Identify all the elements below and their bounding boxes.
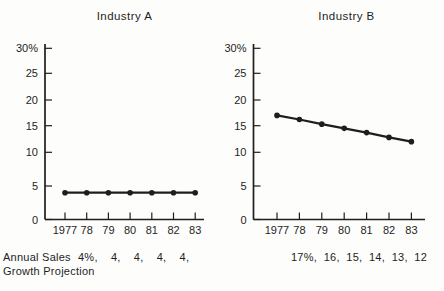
x-tick-label: 79 <box>102 224 114 236</box>
y-tick-label: 0 <box>240 214 246 226</box>
x-tick-label: 83 <box>189 224 201 236</box>
data-point <box>106 190 112 196</box>
data-point <box>386 135 392 141</box>
data-point <box>192 190 198 196</box>
y-tick-label: 15 <box>234 120 246 132</box>
x-tick-label: 1977 <box>265 224 289 236</box>
annotation-values-industry-b: 17%, 16, 15, 14, 13, 12 <box>291 251 427 263</box>
x-tick-label: 78 <box>293 224 305 236</box>
data-point <box>127 190 133 196</box>
data-point <box>274 113 280 119</box>
x-tick-label: 82 <box>383 224 395 236</box>
y-tick-label: 30% <box>224 42 246 54</box>
y-tick-label: 25 <box>234 67 246 79</box>
y-tick-label: 20 <box>26 94 38 106</box>
chart-industry-b: Industry B 30%25201510501977787980818283 <box>222 0 444 245</box>
x-tick-label: 81 <box>360 224 372 236</box>
data-point <box>364 130 370 136</box>
figure: Industry A 30%25201510501977787980818283… <box>0 0 444 291</box>
y-tick-label: 25 <box>26 67 38 79</box>
chart-plot-industry-b: 30%25201510501977787980818283 <box>222 0 444 245</box>
chart-industry-a: Industry A 30%25201510501977787980818283 <box>0 0 222 245</box>
data-point <box>319 121 325 127</box>
annotation-values-industry-a: 4%, 4, 4, 4, 4, <box>78 251 189 263</box>
data-point <box>84 190 90 196</box>
y-tick-label: 10 <box>234 146 246 158</box>
data-point <box>409 139 415 145</box>
data-point <box>297 117 303 123</box>
y-tick-label: 5 <box>240 180 246 192</box>
data-point <box>341 126 347 132</box>
y-tick-label: 15 <box>26 120 38 132</box>
chart-plot-industry-a: 30%25201510501977787980818283 <box>0 0 222 245</box>
x-tick-label: 79 <box>316 224 328 236</box>
data-point <box>62 190 68 196</box>
y-tick-label: 0 <box>32 214 38 226</box>
x-tick-label: 81 <box>146 224 158 236</box>
caption-line-growth-projection: Growth Projection <box>3 265 95 279</box>
y-tick-label: 20 <box>234 94 246 106</box>
x-tick-label: 78 <box>81 224 93 236</box>
y-tick-label: 30% <box>16 42 38 54</box>
data-point <box>171 190 177 196</box>
x-tick-label: 82 <box>167 224 179 236</box>
y-tick-label: 5 <box>32 180 38 192</box>
x-tick-label: 83 <box>405 224 417 236</box>
x-tick-label: 80 <box>124 224 136 236</box>
x-tick-label: 1977 <box>53 224 77 236</box>
y-tick-label: 10 <box>26 146 38 158</box>
x-tick-label: 80 <box>338 224 350 236</box>
data-point <box>149 190 155 196</box>
